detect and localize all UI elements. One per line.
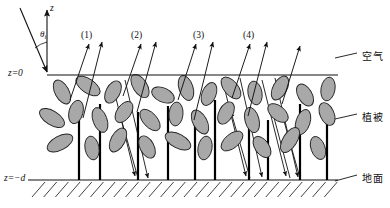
leaf-ellipse: [168, 101, 184, 126]
leaf-ellipse: [101, 78, 125, 106]
hatch-line: [254, 182, 267, 197]
zenith-angle-arc: [35, 42, 47, 48]
leaf-ellipse: [149, 84, 177, 107]
hatch-line: [207, 182, 220, 197]
ray-number-ray-2: (2): [131, 31, 142, 41]
leaf-ellipse: [316, 100, 339, 128]
scattered-ray: [232, 44, 250, 98]
hatch-line: [32, 182, 45, 197]
leaf-ellipse: [50, 77, 75, 107]
leaf-ellipse: [242, 106, 262, 135]
label-leader-group: [335, 53, 357, 181]
ground-hatching: [32, 182, 337, 197]
z-zero-label: z=0: [8, 69, 23, 79]
leaf-ellipse: [73, 72, 104, 100]
leaf-ellipse: [127, 71, 153, 100]
leaf-ellipse: [136, 106, 164, 135]
hatch-line: [172, 182, 185, 197]
hatch-line: [149, 182, 162, 197]
hatch-line: [242, 182, 255, 197]
hatch-line: [137, 182, 150, 197]
hatch-line: [219, 182, 232, 197]
hatch-line: [161, 182, 174, 197]
theta-subscript: i: [44, 33, 46, 40]
leaf-ellipse: [217, 74, 244, 103]
hatch-line: [313, 182, 326, 197]
label-leader-line: [335, 175, 357, 181]
leaf-ellipse: [198, 80, 220, 107]
hatch-line: [67, 182, 80, 197]
hatch-line: [324, 182, 337, 197]
leaf-ellipse: [44, 130, 75, 156]
leaf-group: [36, 71, 338, 161]
region-ground-label: 地面: [362, 174, 383, 184]
z-axis-label: z: [50, 4, 54, 14]
hatch-line: [55, 182, 68, 197]
ray-number-ray-3: (3): [193, 31, 204, 41]
hatch-line: [79, 182, 92, 197]
leaf-ellipse: [268, 73, 293, 103]
leaf-ellipse: [319, 76, 337, 102]
leaf-ellipse: [246, 80, 264, 106]
region-vegetation-label: 植被: [362, 113, 383, 123]
hatch-line: [301, 182, 314, 197]
hatch-line: [278, 182, 291, 197]
leaf-ellipse: [89, 105, 111, 134]
hatch-line: [184, 182, 197, 197]
hatch-line: [231, 182, 244, 197]
hatch-line: [44, 182, 57, 197]
z-depth-label: z=−d: [4, 174, 25, 184]
scattered-ray: [194, 42, 213, 120]
leaf-ellipse: [83, 135, 101, 161]
region-air-label: 空气: [362, 52, 383, 62]
hatch-line: [114, 182, 127, 197]
leaf-ellipse: [293, 81, 317, 109]
label-leader-line: [335, 114, 357, 119]
leaf-ellipse: [307, 134, 328, 161]
hatch-line: [102, 182, 115, 197]
label-leader-line: [335, 53, 357, 58]
ray-number-ray-1: (1): [81, 31, 92, 41]
hatch-line: [266, 182, 279, 197]
hatch-line: [90, 182, 103, 197]
leaf-ellipse: [36, 105, 67, 132]
zenith-angle-label: θi: [40, 30, 46, 41]
hatch-line: [289, 182, 302, 197]
leaf-ellipse: [188, 107, 213, 137]
hatch-line: [126, 182, 139, 197]
figure-canvas: z θi z=0 z=−d (1)(2)(3)(4) 空气植被地面: [0, 0, 390, 208]
hatch-line: [196, 182, 209, 197]
ray-number-ray-4: (4): [243, 31, 254, 41]
leaf-ellipse: [196, 135, 214, 161]
